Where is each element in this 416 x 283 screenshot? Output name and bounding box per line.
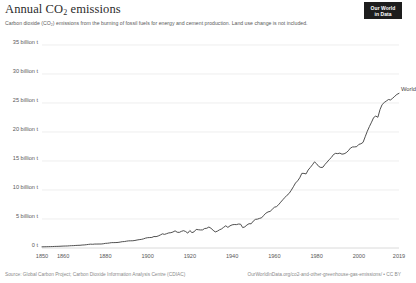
page-title-tail: emissions: [67, 2, 120, 16]
source-text: Source: Global Carbon Project; Carbon Di…: [5, 272, 185, 277]
y-axis-tick-label: 15 billion t: [0, 155, 38, 161]
x-axis-tick-label: 1940: [217, 253, 247, 259]
page-title-main: Annual CO: [5, 2, 63, 16]
page-title-subscript: 2: [63, 8, 67, 17]
chart-subtitle: Carbon dioxide (CO₂) emissions from the …: [5, 20, 357, 27]
x-axis-tick-label: 2019: [384, 253, 414, 259]
y-axis-tick-label: 20 billion t: [0, 126, 38, 132]
x-axis-tick-label: 1920: [175, 253, 205, 259]
source-url-text[interactable]: OurWorldInData.org/co2-and-other-greenho…: [247, 272, 401, 277]
logo-line-1: Our World: [371, 5, 396, 11]
x-axis-tick-label: 1880: [90, 253, 120, 259]
y-axis-tick-label: 35 billion t: [0, 39, 38, 45]
chart-header: Annual CO2 emissions Carbon dioxide (CO₂…: [5, 2, 360, 27]
x-axis-tick-label: 1900: [133, 253, 163, 259]
chart-footer: Source: Global Carbon Project; Carbon Di…: [5, 272, 401, 277]
x-axis-tick-label: 1850: [27, 253, 57, 259]
series-line-world: [42, 93, 399, 247]
y-axis-tick-label: 5 billion t: [0, 213, 38, 219]
x-axis-tick-label: 1980: [302, 253, 332, 259]
x-axis-tick-label: 1960: [259, 253, 289, 259]
x-axis-tick-label: 1860: [48, 253, 78, 259]
y-axis-tick-label: 10 billion t: [0, 184, 38, 190]
y-axis-tick-label: 25 billion t: [0, 97, 38, 103]
y-axis-tick-label: 0 t: [0, 242, 38, 248]
page-title: Annual CO2 emissions: [5, 2, 360, 18]
series-end-label-world: World: [401, 86, 416, 92]
y-axis-tick-label: 30 billion t: [0, 68, 38, 74]
gridlines: [42, 45, 399, 219]
logo-line-2: in Data: [364, 11, 402, 17]
our-world-in-data-logo[interactable]: Our World in Data: [364, 2, 402, 19]
x-axis-tick-label: 2000: [344, 253, 374, 259]
